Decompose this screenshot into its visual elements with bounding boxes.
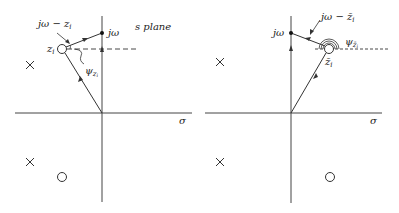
axis-arrow-marker: [289, 45, 293, 51]
zero-marker: [58, 45, 67, 54]
angle-label: ψz̄i: [345, 36, 359, 49]
pole-marker: [26, 158, 34, 166]
label-leader: [312, 20, 320, 32]
zero-marker: [325, 45, 334, 54]
zero-label: zi: [46, 43, 55, 56]
jw-point: [289, 31, 293, 35]
zero-label: z̄i: [324, 56, 333, 69]
left-s-plane: jω − zi jω s plane zi ψzi σ: [15, 16, 192, 202]
right-s-plane: jω − z̄i jω ψz̄i z̄i σ: [205, 11, 388, 203]
pole-zero-diagram: jω − zi jω s plane zi ψzi σ: [0, 0, 399, 213]
origin-to-zero-vector: [291, 53, 326, 113]
jw-label: jω: [271, 27, 284, 38]
sigma-label: σ: [179, 115, 187, 126]
pole-marker: [26, 61, 34, 69]
angle-leader: [74, 49, 84, 64]
pole-marker: [216, 58, 224, 66]
pole-marker: [216, 158, 224, 166]
vector-label: jω − zi: [36, 18, 72, 31]
arrow-head-icon: [65, 39, 70, 44]
zero-marker: [58, 173, 67, 182]
sigma-label: σ: [370, 115, 378, 126]
origin-to-zero-vector: [65, 53, 102, 113]
angle-label: ψzi: [85, 65, 99, 78]
jw-point: [100, 31, 104, 35]
jw-label: jω: [106, 27, 119, 38]
vector-label: jω − z̄i: [319, 11, 355, 24]
angle-arc: [70, 45, 71, 49]
zero-marker: [326, 173, 335, 182]
plane-label: s plane: [135, 21, 171, 32]
